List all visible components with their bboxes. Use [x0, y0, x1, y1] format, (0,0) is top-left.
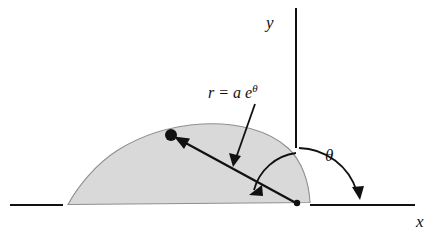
y-axis-label: y [264, 13, 274, 32]
spiral-diagram: y x θ r = a eθ [0, 0, 443, 236]
equation-label-exponent: θ [252, 82, 258, 94]
equation-label: r = a eθ [208, 82, 258, 101]
theta-label: θ [325, 146, 333, 165]
equation-label-base: r = a e [208, 84, 252, 101]
spiral-point-dot [165, 129, 177, 141]
origin-dot [294, 200, 300, 206]
x-axis-label: x [415, 212, 424, 231]
